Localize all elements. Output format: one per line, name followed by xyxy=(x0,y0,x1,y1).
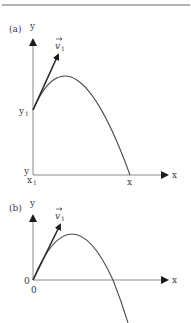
x-axis-label-a: x xyxy=(172,170,177,180)
svg-text:y: y xyxy=(18,106,25,116)
y-axis-label-a: y xyxy=(29,21,36,31)
svg-text:1: 1 xyxy=(25,110,29,117)
svg-text:1: 1 xyxy=(61,215,65,222)
velocity-vector-a xyxy=(33,55,58,110)
svg-text:1: 1 xyxy=(33,179,37,186)
svg-text:x: x xyxy=(27,175,32,185)
velocity-label-b: v 1 xyxy=(55,208,65,223)
velocity-vector-b xyxy=(33,225,60,280)
trajectory-a xyxy=(33,76,130,175)
panel-label-b: (b) xyxy=(9,203,22,213)
initial-height-label-a: y 1 xyxy=(18,106,29,117)
origin-x-label-b: 0 xyxy=(31,285,37,295)
svg-text:v: v xyxy=(55,211,60,221)
origin-y-label-b: 0 xyxy=(24,276,30,286)
trajectory-b xyxy=(33,234,128,323)
y-axis-label-b: y xyxy=(29,198,36,208)
x-axis-label-b: x xyxy=(172,275,177,285)
panel-label-a: (a) xyxy=(9,24,21,34)
diagram-b: (b) y x v 1 0 0 xyxy=(9,198,177,323)
svg-text:1: 1 xyxy=(61,45,65,52)
svg-text:v: v xyxy=(55,41,60,51)
landing-x-label-a: x xyxy=(127,177,132,187)
diagram-a: (a) y x v 1 y 1 y x 1 x xyxy=(9,21,177,187)
origin-x-label-a: x 1 xyxy=(27,175,37,186)
velocity-label-a: v 1 xyxy=(55,38,65,53)
projectile-diagrams: (a) y x v 1 y 1 y x 1 x (b) y xyxy=(0,0,191,323)
